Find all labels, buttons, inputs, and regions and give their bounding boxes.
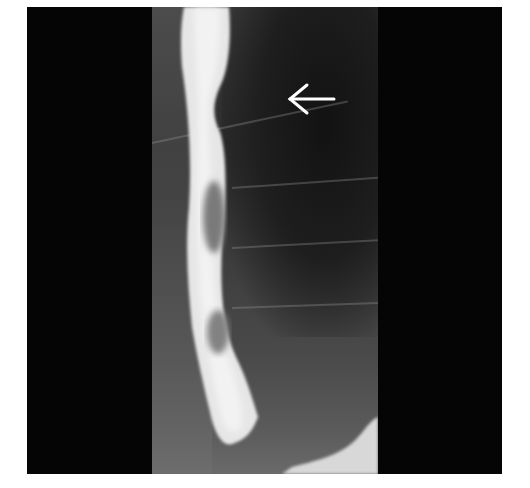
annotation-arrow-icon [152,7,378,474]
image-frame [27,7,502,474]
xray-panel [152,7,378,474]
